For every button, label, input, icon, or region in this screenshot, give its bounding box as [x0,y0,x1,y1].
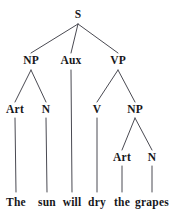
node-np-object: NP [127,104,143,116]
phrase-structure-tree-figure: S NP Aux VP Art N V NP Art N The sun wil… [0,0,174,215]
node-art-2: Art [113,152,131,164]
word-sun: sun [38,197,56,209]
tree-edge-vp-to-np2 [118,70,135,102]
word-dry: dry [88,197,106,209]
node-n-1: N [42,104,51,116]
node-vp: VP [110,55,126,67]
node-np-subject: NP [23,55,39,67]
tree-edge-n1-to-sun [46,118,47,192]
tree-edge-s-to-np [31,24,78,53]
tree-edge-s-to-vp [78,24,118,53]
node-s: S [75,9,82,21]
word-the-1: The [6,197,26,209]
tree-edge-aux-to-will [71,70,72,192]
tree-edges-layer [0,0,174,215]
node-v: V [93,104,102,116]
tree-edge-art1-to-the [15,118,16,192]
tree-edge-vp-to-v [97,70,118,102]
tree-edge-np2-to-art2 [122,118,135,150]
word-the-2: the [114,197,130,209]
node-aux: Aux [60,55,81,67]
node-n-2: N [148,152,157,164]
word-grapes: grapes [135,197,169,209]
tree-edge-s-to-aux [71,24,78,53]
tree-edge-np1-to-art [15,70,31,102]
tree-edge-np2-to-n2 [135,118,152,150]
node-art-1: Art [6,104,24,116]
tree-edge-np1-to-n [31,70,46,102]
word-will: will [63,197,82,209]
